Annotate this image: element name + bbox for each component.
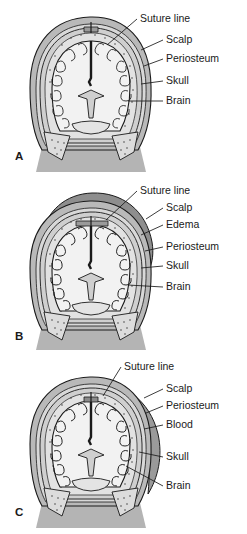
panel-letter-b: B xyxy=(15,330,23,342)
label-brain: Brain xyxy=(166,94,191,106)
leader-scalp xyxy=(144,389,163,398)
label-suture-line: Suture line xyxy=(140,184,190,196)
label-suture-line: Suture line xyxy=(140,12,190,24)
label-skull: Skull xyxy=(166,74,189,86)
panel-b: Suture line Scalp Edema Periosteum Skull… xyxy=(0,178,247,356)
label-brain: Brain xyxy=(166,479,191,491)
leader-scalp xyxy=(141,40,163,50)
label-edema: Edema xyxy=(166,218,199,230)
leader-scalp xyxy=(146,208,163,219)
suture-line-marker xyxy=(76,221,108,226)
label-periosteum: Periosteum xyxy=(166,240,219,252)
panel-a: Suture line Scalp Periosteum Skull Brain… xyxy=(0,0,247,178)
figure-neonatal-scalp-swelling: Suture line Scalp Periosteum Skull Brain… xyxy=(0,0,247,534)
label-suture-line: Suture line xyxy=(124,360,174,372)
panel-letter-a: A xyxy=(15,150,23,162)
label-blood: Blood xyxy=(166,418,193,430)
panel-letter-c: C xyxy=(15,506,23,518)
label-brain: Brain xyxy=(166,280,191,292)
leader-periosteum xyxy=(146,406,163,413)
label-skull: Skull xyxy=(166,259,189,271)
panel-c: Suture line Scalp Periosteum Blood Skull… xyxy=(0,356,247,534)
label-periosteum: Periosteum xyxy=(166,52,219,64)
label-skull: Skull xyxy=(166,450,189,462)
label-periosteum: Periosteum xyxy=(166,399,219,411)
label-scalp: Scalp xyxy=(166,201,192,213)
label-scalp: Scalp xyxy=(166,382,192,394)
label-scalp: Scalp xyxy=(166,33,192,45)
